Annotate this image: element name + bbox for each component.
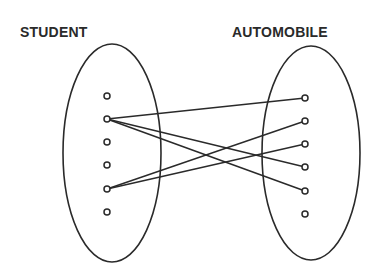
mapping-edge xyxy=(107,121,305,189)
student-node xyxy=(104,209,110,215)
student-set-ellipse xyxy=(63,44,161,262)
automobile-node xyxy=(302,164,308,170)
mapping-edge xyxy=(107,119,305,167)
automobile-node xyxy=(302,188,308,194)
student-node xyxy=(104,162,110,168)
student-node xyxy=(104,186,110,192)
student-node xyxy=(104,93,110,99)
student-node xyxy=(104,139,110,145)
automobile-node xyxy=(302,118,308,124)
automobile-node xyxy=(302,211,308,217)
automobile-node xyxy=(302,141,308,147)
mapping-edge xyxy=(107,98,305,119)
mapping-edge xyxy=(107,144,305,189)
automobile-set-ellipse xyxy=(262,46,360,260)
mapping-diagram xyxy=(0,0,392,280)
automobile-node xyxy=(302,95,308,101)
student-node xyxy=(104,116,110,122)
